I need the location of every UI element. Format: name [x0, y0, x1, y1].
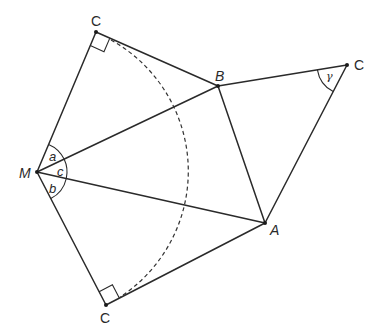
- label-c-top: C: [91, 13, 101, 29]
- point-c-top: [94, 30, 98, 34]
- label-a: A: [269, 222, 279, 238]
- label-m: M: [19, 165, 31, 181]
- segment-m-cbottom: [37, 172, 106, 305]
- angle-label-gamma: γ: [326, 70, 333, 83]
- point-m: [35, 170, 39, 174]
- angle-label-b: b: [49, 181, 56, 196]
- point-a: [263, 221, 267, 225]
- point-b: [216, 84, 220, 88]
- point-c-right: [345, 63, 349, 67]
- angle-label-c: c: [57, 164, 64, 179]
- segment-b-a: [218, 86, 265, 223]
- point-c-bottom: [104, 303, 108, 307]
- segment-ctop-b: [96, 32, 218, 86]
- angle-label-a: a: [49, 149, 56, 164]
- label-c-bottom: C: [100, 310, 110, 326]
- segment-m-ctop: [37, 32, 96, 172]
- label-b: B: [215, 68, 224, 84]
- segment-cright-a: [265, 65, 347, 223]
- segment-cbottom-a: [106, 223, 265, 305]
- segment-m-a: [37, 172, 265, 223]
- geometry-diagram: M C B C A C a c b γ: [0, 0, 381, 335]
- dashed-arc: [111, 40, 188, 297]
- label-c-right: C: [354, 57, 364, 73]
- angle-arc-c: [64, 159, 67, 178]
